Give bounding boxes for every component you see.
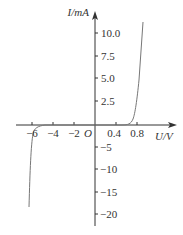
x-tick-label-0-4: 0.4 (107, 127, 121, 139)
iv-characteristic-chart: I/mA U/V O −6 −4 −2 0.4 0.8 10.0 7.5 5.0… (0, 0, 183, 235)
origin-label: O (84, 127, 92, 139)
y-axis-label: I/mA (67, 6, 90, 18)
y-tick-label-neg20: −20 (100, 208, 118, 220)
y-tick-label-neg15: −15 (100, 186, 118, 198)
x-tick-label-neg6: −6 (26, 127, 38, 139)
y-tick-label-7-5: 7.5 (101, 50, 115, 62)
x-tick-label-neg4: −4 (47, 127, 59, 139)
y-tick-label-2-5: 2.5 (101, 95, 115, 107)
y-axis-label-text: I/mA (67, 6, 90, 18)
y-tick-label-neg10: −10 (100, 163, 118, 175)
x-axis-label: U/V (155, 130, 174, 142)
x-tick-label-0-8: 0.8 (130, 127, 144, 139)
y-tick-label-10: 10.0 (101, 27, 121, 39)
y-tick-label-5: 5.0 (101, 72, 115, 84)
y-tick-label-neg5: −5 (100, 141, 112, 153)
x-tick-label-neg2: −2 (68, 127, 80, 139)
